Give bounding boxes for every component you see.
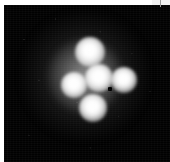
figure-root <box>0 0 170 162</box>
bright-spot-bottom <box>79 94 107 122</box>
page-edge-notch <box>152 0 170 5</box>
detector-image-panel <box>4 5 170 162</box>
bright-spot-right <box>111 67 137 93</box>
bright-spot-left <box>61 72 87 98</box>
bright-spot-top <box>75 37 105 67</box>
dead-pixel-defect <box>108 87 112 91</box>
page-edge-tick <box>160 0 161 7</box>
